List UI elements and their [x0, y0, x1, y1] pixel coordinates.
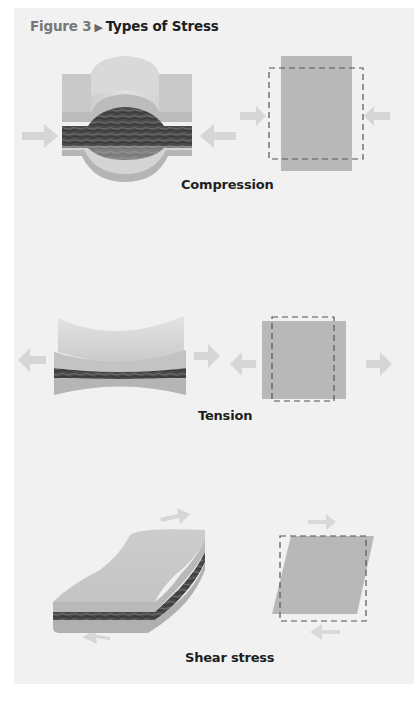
shear-stress-square	[0, 0, 414, 702]
arrow-left-icon	[310, 624, 340, 640]
arrow-right-icon	[308, 514, 336, 530]
shear-stress-label: Shear stress	[185, 650, 274, 665]
